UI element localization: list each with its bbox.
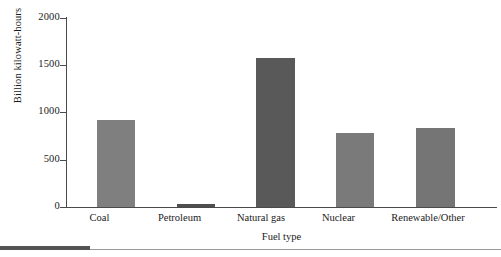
- x-category-label-renewable-other: Renewable/Other: [369, 212, 487, 224]
- bar-natural-gas: [256, 58, 295, 207]
- x-category-label-petroleum: Petroleum: [137, 212, 222, 224]
- y-tick-label-2000-wrap: 2000: [0, 12, 60, 23]
- bar-chart-figure: 2000 1500 1000 500 0 Billion kilowatt-ho…: [0, 0, 501, 257]
- bar-coal: [97, 120, 135, 207]
- x-axis-title: Fuel type: [66, 231, 497, 243]
- bar-renewable-other: [416, 128, 455, 207]
- y-tick-label-1000-wrap: 1000: [0, 106, 60, 117]
- x-category-label-coal: Coal: [57, 212, 142, 224]
- y-tick-label-1500-wrap: 1500: [0, 59, 60, 70]
- y-tick-label-500-wrap: 500: [0, 154, 60, 165]
- y-tick-label-500: 500: [6, 154, 60, 165]
- x-category-label-natural-gas: Natural gas: [216, 212, 306, 224]
- plot-area: [66, 18, 497, 207]
- x-axis-line: [66, 207, 497, 208]
- y-tick-mark-0: [60, 207, 67, 208]
- y-tick-label-0-wrap: 0: [0, 201, 60, 212]
- y-tick-label-0: 0: [6, 201, 60, 212]
- bar-petroleum: [177, 204, 215, 207]
- footer-divider-thick: [0, 246, 90, 250]
- y-axis-title: Billion kilowatt-hours: [12, 0, 23, 126]
- bar-nuclear: [336, 133, 374, 207]
